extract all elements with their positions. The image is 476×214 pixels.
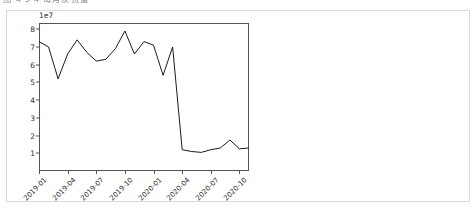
x-tick-mark <box>96 171 97 174</box>
x-tick-label: 2019-01 <box>22 176 48 202</box>
x-tick-mark <box>125 171 126 174</box>
chart-plot-area: 12345678 2019-012019-042019-072019-10202… <box>39 23 249 171</box>
y-tick-label: 8 <box>30 25 35 34</box>
figure-caption-heading: 图 4-5 4 每月发货量 <box>3 0 90 4</box>
y-tick-label: 5 <box>30 78 35 87</box>
y-tick-label: 3 <box>30 113 35 122</box>
x-tick-mark <box>68 171 69 174</box>
x-tick-label: 2019-07 <box>80 176 106 202</box>
y-tick-label: 2 <box>30 131 35 140</box>
x-tick-label: 2020-07 <box>194 176 220 202</box>
page-root: 图 4-5 4 每月发货量 1e7 12345678 2019-012019-0… <box>0 0 476 214</box>
x-tick-mark <box>39 171 40 174</box>
figure-container: 1e7 12345678 2019-012019-042019-072019-1… <box>6 10 470 202</box>
y-tick-label: 4 <box>30 96 35 105</box>
line-series <box>39 23 249 171</box>
x-tick-label: 2019-04 <box>51 176 77 202</box>
x-tick-mark <box>211 171 212 174</box>
x-tick-label: 2020-04 <box>165 176 191 202</box>
x-tick-label: 2020-01 <box>137 176 163 202</box>
y-tick-label: 7 <box>30 42 35 51</box>
x-tick-mark <box>154 171 155 174</box>
y-tick-label: 6 <box>30 60 35 69</box>
x-tick-mark <box>182 171 183 174</box>
x-tick-label: 2019-10 <box>108 176 134 202</box>
x-tick-mark <box>239 171 240 174</box>
y-tick-label: 1 <box>30 149 35 158</box>
y-axis-offset-label: 1e7 <box>39 11 53 20</box>
x-tick-label: 2020-10 <box>223 176 249 202</box>
